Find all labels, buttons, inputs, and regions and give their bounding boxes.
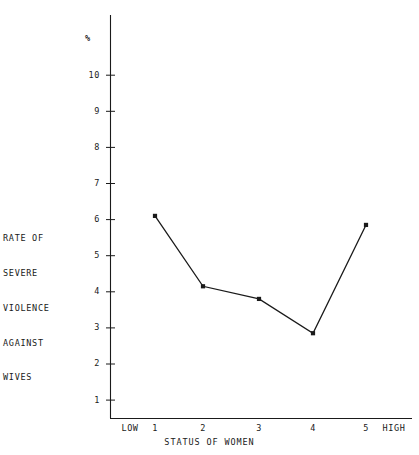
data-point-5 — [364, 223, 368, 227]
y-tick-label-1: 1 — [78, 395, 100, 406]
x-tick-label-4: 4 — [296, 423, 330, 434]
x-axis-title: STATUS OF WOMEN — [0, 437, 419, 448]
data-point-1 — [153, 214, 157, 218]
y-tick-label-9: 9 — [78, 106, 100, 117]
y-axis-title: RATE OF SEVERE VIOLENCE AGAINST WIVES — [3, 210, 50, 407]
data-point-markers — [153, 214, 368, 336]
data-point-2 — [201, 284, 205, 288]
y-axis-title-line-1: RATE OF — [3, 233, 50, 245]
x-tick-label-high: HIGH — [377, 423, 411, 434]
y-tick-label-3: 3 — [78, 322, 100, 333]
y-axis-title-line-3: VIOLENCE — [3, 303, 50, 315]
line-chart: % 10 9 8 7 6 5 4 3 2 1 LOW 1 2 3 4 5 HIG… — [0, 0, 419, 455]
y-axis-title-line-5: WIVES — [3, 372, 50, 384]
y-tick-label-10: 10 — [78, 70, 100, 81]
data-point-4 — [311, 331, 315, 335]
x-tick-label-2: 2 — [186, 423, 220, 434]
data-point-3 — [257, 297, 261, 301]
y-tick-label-8: 8 — [78, 142, 100, 153]
x-tick-label-1: 1 — [138, 423, 172, 434]
y-axis-title-line-2: SEVERE — [3, 268, 50, 280]
y-tick-label-2: 2 — [78, 358, 100, 369]
plot-area — [0, 0, 419, 455]
data-line-severe-violence — [155, 216, 366, 333]
y-axis-unit-label: % — [85, 33, 91, 44]
y-tick-label-5: 5 — [78, 250, 100, 261]
y-tick-label-7: 7 — [78, 178, 100, 189]
y-tick-label-4: 4 — [78, 286, 100, 297]
y-tick-label-6: 6 — [78, 214, 100, 225]
x-tick-label-3: 3 — [242, 423, 276, 434]
y-axis-title-line-4: AGAINST — [3, 338, 50, 350]
